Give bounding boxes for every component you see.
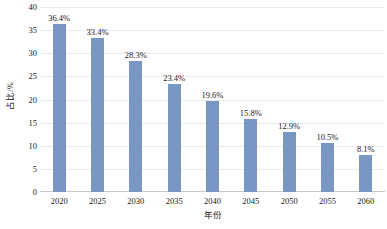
bar-value-label: 33.4% xyxy=(87,28,109,37)
y-axis-tick-label: 25 xyxy=(29,72,38,81)
y-axis-tick-label: 15 xyxy=(29,118,38,127)
bar-slot: 8.1% xyxy=(347,7,385,192)
bar-value-label: 8.1% xyxy=(357,145,375,154)
bar-slot: 36.4% xyxy=(40,7,78,192)
bar-slot: 12.9% xyxy=(270,7,308,192)
y-axis-tick-label: 10 xyxy=(29,142,38,151)
x-axis-tick-label: 2030 xyxy=(117,194,155,208)
y-axis-tick-label: 5 xyxy=(33,165,37,174)
y-axis-tick-label: 30 xyxy=(29,49,38,58)
y-axis-tick-label: 20 xyxy=(29,95,38,104)
bar-value-label: 10.5% xyxy=(316,133,338,142)
plot-area: 36.4%33.4%28.3%23.4%19.6%15.8%12.9%10.5%… xyxy=(40,7,385,192)
y-axis-tick-label: 0 xyxy=(33,188,37,197)
bar-chart: 占比/% 0510152025303540 36.4%33.4%28.3%23.… xyxy=(0,0,387,229)
bar-slot: 15.8% xyxy=(232,7,270,192)
bar-slot: 10.5% xyxy=(308,7,346,192)
bar-value-label: 19.6% xyxy=(201,91,223,100)
x-axis-tick-label: 2050 xyxy=(270,194,308,208)
bar[interactable]: 23.4% xyxy=(168,84,181,192)
y-axis-title: 占比/% xyxy=(0,0,18,192)
bar-slot: 19.6% xyxy=(193,7,231,192)
x-axis-tick-label: 2045 xyxy=(232,194,270,208)
y-axis-tick-labels: 0510152025303540 xyxy=(18,0,40,192)
bar[interactable]: 10.5% xyxy=(321,143,334,192)
bar-value-label: 23.4% xyxy=(163,74,185,83)
bar-slot: 33.4% xyxy=(78,7,116,192)
y-axis-tick-label: 40 xyxy=(29,3,38,12)
y-axis-tick-label: 35 xyxy=(29,26,38,35)
bar-value-label: 28.3% xyxy=(125,51,147,60)
bar[interactable]: 15.8% xyxy=(244,119,257,192)
bar-slot: 23.4% xyxy=(155,7,193,192)
bar-value-label: 36.4% xyxy=(48,14,70,23)
bar-slot: 28.3% xyxy=(117,7,155,192)
bar[interactable]: 33.4% xyxy=(91,38,104,192)
bar-series: 36.4%33.4%28.3%23.4%19.6%15.8%12.9%10.5%… xyxy=(40,7,385,192)
bar[interactable]: 19.6% xyxy=(206,101,219,192)
bar-value-label: 15.8% xyxy=(240,109,262,118)
x-axis-title: 年份 xyxy=(40,208,385,220)
x-axis-tick-label: 2040 xyxy=(193,194,231,208)
x-axis-tick-labels: 202020252030203520402045205020552060 xyxy=(40,194,385,208)
x-axis-tick-label: 2035 xyxy=(155,194,193,208)
bar-value-label: 12.9% xyxy=(278,122,300,131)
x-axis-tick-label: 2060 xyxy=(347,194,385,208)
x-axis-tick-label: 2025 xyxy=(78,194,116,208)
x-axis-tick-label: 2055 xyxy=(308,194,346,208)
x-axis-tick-label: 2020 xyxy=(40,194,78,208)
bar[interactable]: 12.9% xyxy=(283,132,296,192)
y-axis-title-text: 占比/% xyxy=(3,82,15,110)
bar[interactable]: 8.1% xyxy=(359,155,372,192)
bar[interactable]: 28.3% xyxy=(129,61,142,192)
bar[interactable]: 36.4% xyxy=(53,24,66,192)
